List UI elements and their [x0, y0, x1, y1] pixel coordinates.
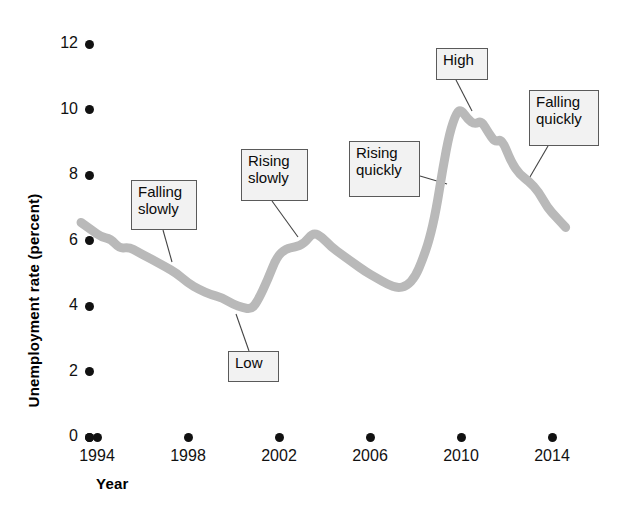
x-tick-label: 2006 — [340, 447, 400, 465]
x-tick-dot — [93, 433, 102, 442]
x-tick-label: 2002 — [249, 447, 309, 465]
x-tick-dot — [457, 433, 466, 442]
x-tick-dot — [548, 433, 557, 442]
annotation-leader-line — [236, 314, 249, 351]
annotation-leader-lines — [163, 80, 548, 351]
y-tick-dot — [85, 105, 94, 114]
annotation-callout: Rising slowly — [241, 149, 308, 201]
x-tick-dot — [275, 433, 284, 442]
y-tick-dot — [85, 40, 94, 49]
x-axis-title: Year — [96, 475, 129, 492]
annotation-callout: Low — [228, 351, 279, 382]
y-tick-label: 8 — [44, 165, 78, 183]
annotation-callout: Falling slowly — [131, 180, 197, 230]
annotation-leader-line — [163, 230, 172, 262]
y-tick-label: 10 — [44, 100, 78, 118]
annotation-callout: High — [436, 48, 488, 80]
y-tick-label: 0 — [44, 427, 78, 445]
x-tick-label: 1998 — [158, 447, 218, 465]
y-tick-label: 2 — [44, 362, 78, 380]
annotation-callout: Rising quickly — [349, 141, 420, 197]
y-tick-label: 12 — [44, 34, 78, 52]
annotation-callout: Falling quickly — [529, 90, 599, 146]
y-tick-dot — [85, 367, 94, 376]
y-tick-dot — [85, 236, 94, 245]
y-tick-dot — [85, 171, 94, 180]
annotation-leader-line — [456, 80, 472, 111]
y-tick-dot — [85, 302, 94, 311]
annotation-leader-line — [272, 201, 298, 237]
x-tick-label: 2010 — [431, 447, 491, 465]
chart-plot-area — [0, 0, 620, 519]
x-tick-label: 2014 — [522, 447, 582, 465]
x-tick-label: 1994 — [67, 447, 127, 465]
origin-tick-dot — [85, 433, 94, 442]
y-axis-title: Unemployment rate (percent) — [25, 171, 42, 431]
x-tick-dot — [366, 433, 375, 442]
annotation-leader-line — [527, 146, 548, 182]
x-tick-dot — [184, 433, 193, 442]
y-tick-label: 4 — [44, 296, 78, 314]
unemployment-rate-chart: 024681012 199419982002200620102014 Unemp… — [0, 0, 620, 519]
y-tick-label: 6 — [44, 231, 78, 249]
